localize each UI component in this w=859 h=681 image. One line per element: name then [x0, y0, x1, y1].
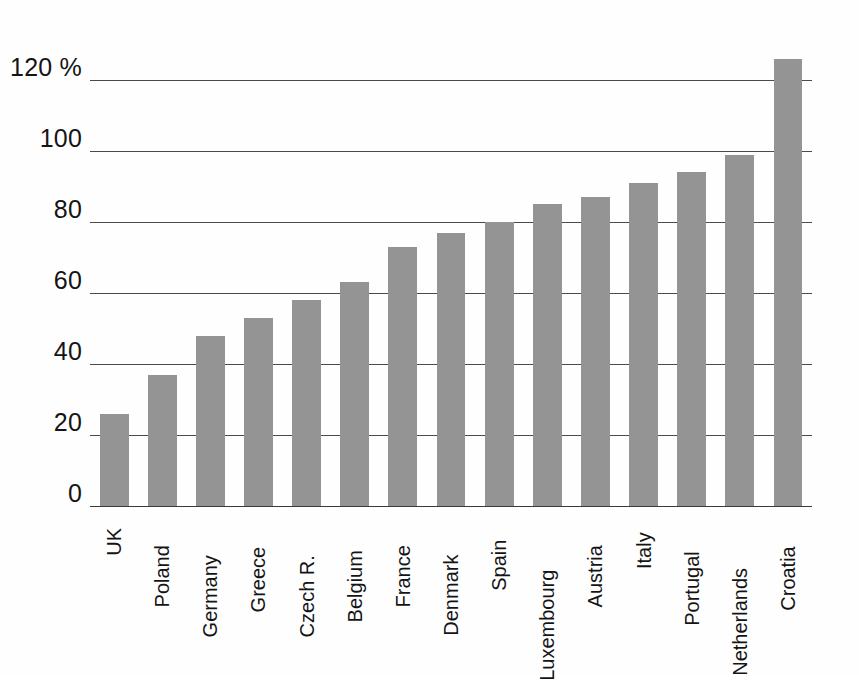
x-axis-label: Portugal: [692, 477, 712, 552]
x-axis-label-slot: Austria: [571, 508, 619, 658]
x-axis-label: UK: [114, 500, 134, 528]
bar-slot: [764, 25, 812, 506]
bar-slot: [283, 25, 331, 506]
x-axis-labels: UKPolandGermanyGreeceCzech R.BelgiumFran…: [90, 508, 812, 658]
x-axis-label: Spain: [499, 488, 519, 539]
x-axis-label-text: Austria: [585, 545, 605, 607]
bar-slot: [90, 25, 138, 506]
x-axis-label: Italy: [644, 496, 664, 533]
x-axis-label-slot: Belgium: [331, 508, 379, 658]
x-axis-label-text: Germany: [200, 555, 220, 637]
x-axis-label-slot: UK: [90, 508, 138, 658]
x-axis-label: Germany: [210, 473, 230, 555]
bar-slot: [523, 25, 571, 506]
x-axis-label-slot: Poland: [138, 508, 186, 658]
ytick-label-0: 0: [68, 481, 90, 506]
x-axis-label: Belgium: [355, 478, 375, 550]
x-axis-label-text: Greece: [248, 547, 268, 613]
plot-area: 120 % 100 80 60 40 20 0: [90, 25, 812, 506]
x-axis-label-slot: Luxembourg: [523, 508, 571, 658]
x-axis-label-slot: Germany: [186, 508, 234, 658]
x-axis-label-text: Spain: [489, 540, 509, 591]
x-axis-label: France: [403, 483, 423, 545]
bar[interactable]: [437, 233, 466, 506]
x-axis-label-slot: Czech R.: [283, 508, 331, 658]
bar-slot: [234, 25, 282, 506]
bar-slot: [716, 25, 764, 506]
ytick-label-120: 120 %: [10, 55, 90, 80]
ytick-label-40: 40: [54, 339, 90, 364]
x-axis-label: Denmark: [451, 473, 471, 554]
x-axis-label-text: Portugal: [682, 551, 702, 626]
bar-slot: [427, 25, 475, 506]
x-axis-label-slot: Spain: [475, 508, 523, 658]
ytick-label-60: 60: [54, 268, 90, 293]
bar-slot: [186, 25, 234, 506]
ytick-label-80: 80: [54, 197, 90, 222]
ytick-label-20: 20: [54, 410, 90, 435]
x-axis-label: Greece: [258, 481, 278, 547]
x-axis-label-text: Croatia: [778, 546, 798, 610]
x-axis-label-text: Denmark: [441, 555, 461, 636]
bar[interactable]: [677, 172, 706, 506]
bar[interactable]: [725, 155, 754, 506]
x-axis-label-text: Czech R.: [297, 555, 317, 637]
bar[interactable]: [388, 247, 417, 506]
bar[interactable]: [244, 318, 273, 506]
bar[interactable]: [629, 183, 658, 506]
x-axis-label: Croatia: [788, 482, 808, 546]
x-axis-label: Luxembourg: [547, 458, 567, 569]
x-axis-label: Austria: [595, 483, 615, 545]
x-axis-label-text: France: [393, 545, 413, 607]
x-axis-label: Netherlands: [740, 460, 760, 568]
bar-slot: [331, 25, 379, 506]
bar-slot: [475, 25, 523, 506]
bar[interactable]: [100, 414, 129, 506]
x-axis-label-text: Luxembourg: [537, 570, 557, 681]
x-axis-label-text: Poland: [152, 545, 172, 607]
bar-slot: [379, 25, 427, 506]
bar[interactable]: [774, 59, 803, 506]
x-axis-label-slot: Denmark: [427, 508, 475, 658]
x-axis-label: Poland: [162, 483, 182, 545]
x-axis-label-text: UK: [104, 528, 124, 556]
bar-series: [90, 25, 812, 506]
bar[interactable]: [340, 282, 369, 506]
x-axis-label-text: Belgium: [345, 550, 365, 622]
x-axis-label-slot: Italy: [620, 508, 668, 658]
bar[interactable]: [485, 222, 514, 506]
x-axis-label: Czech R.: [307, 473, 327, 555]
x-axis-label-slot: Netherlands: [716, 508, 764, 658]
x-axis-label-slot: France: [379, 508, 427, 658]
x-axis-label-slot: Portugal: [668, 508, 716, 658]
ytick-label-100: 100: [40, 126, 90, 151]
bar-slot: [571, 25, 619, 506]
x-axis-label-slot: Greece: [234, 508, 282, 658]
bar-slot: [620, 25, 668, 506]
bar[interactable]: [581, 197, 610, 506]
x-axis-label-slot: Croatia: [764, 508, 812, 658]
bar-slot: [138, 25, 186, 506]
bar-slot: [668, 25, 716, 506]
x-axis-label-text: Italy: [634, 532, 654, 569]
x-axis-label-text: Netherlands: [730, 568, 750, 676]
